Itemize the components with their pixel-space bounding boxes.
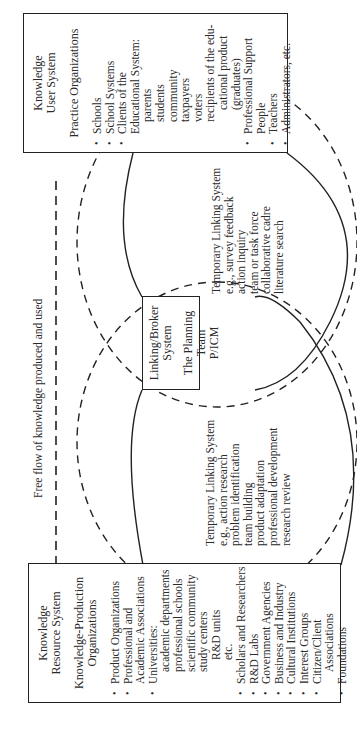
list-item: recipients of the edu-: [204, 20, 217, 146]
list-item: taxpayers: [179, 20, 192, 146]
tls-line: action inquiry: [235, 168, 248, 294]
list-item: R&D Labs: [248, 570, 261, 696]
user-system-title: Knowledge User System: [32, 20, 58, 146]
list-item: Product Organizations: [109, 570, 122, 696]
list-item: (graduates): [230, 20, 243, 146]
list-item: Government Agencies: [260, 570, 273, 696]
list-item: Teachers: [267, 20, 280, 146]
tls-line: team or task force: [248, 168, 261, 294]
broker-code: P/ICM: [208, 297, 221, 389]
tls-line: product adaptation: [254, 420, 267, 546]
list-item: People: [255, 20, 268, 146]
list-item: students: [154, 20, 167, 146]
user-system-list: Schools School Systems Clients of the Ed…: [91, 20, 293, 146]
broker-title: Linking/Broker System: [148, 297, 174, 389]
list-item: Business and Industry: [273, 570, 286, 696]
title-line: Resource System: [50, 570, 63, 696]
resource-system-list: Product Organizations Professional and A…: [109, 570, 348, 696]
flow-label: Free flow of knowledge produced and used: [32, 299, 44, 498]
list-item: Associations: [323, 570, 336, 696]
list-item: voters: [192, 20, 205, 146]
list-item: scientific community: [185, 570, 198, 696]
list-item: Schools: [91, 20, 104, 146]
list-item: parents: [141, 20, 154, 146]
tls-line: Temporary Linking System: [210, 168, 223, 294]
list-item: Universities:: [147, 570, 160, 696]
list-item: Scholars and Researchers: [235, 570, 248, 696]
list-item: Administrators, etc.: [280, 20, 293, 146]
list-item: study centers: [197, 570, 210, 696]
list-item: Professional and: [122, 570, 135, 696]
subtitle-line: Organizations: [86, 570, 99, 696]
list-item: Educational System:: [129, 20, 142, 146]
tls-line: Temporary Linking System: [204, 420, 217, 546]
tls-line: e.g., survey feedback: [223, 168, 236, 294]
list-item: Clients of the: [116, 20, 129, 146]
list-item: Citizen/Client: [311, 570, 324, 696]
list-item: community: [167, 20, 180, 146]
broker-team: The Planning Team: [182, 297, 208, 389]
linking-broker-system-box: Linking/Broker System The Planning Team …: [142, 296, 200, 390]
list-item: Professional Support: [242, 20, 255, 146]
temporary-linking-system-left: Temporary Linking System e.g., action re…: [204, 420, 292, 546]
subtitle-line: Practice Organizations: [68, 20, 81, 146]
list-item: Cultural Institutions: [285, 570, 298, 696]
tls-line: e.g., action research: [217, 420, 230, 546]
tls-line: team building: [242, 420, 255, 546]
list-item: Interest Groups: [298, 570, 311, 696]
tls-line: research review: [280, 420, 293, 546]
list-item: School Systems: [104, 20, 117, 146]
tls-line: literature search: [273, 168, 286, 294]
knowledge-user-system-box: Knowledge User System Practice Organizat…: [23, 13, 288, 153]
list-item: professional schools: [172, 570, 185, 696]
solid-arc-left-lower: [131, 390, 143, 565]
list-item: Foundations: [336, 570, 349, 696]
list-item: Academic Associations: [134, 570, 147, 696]
title-line: User System: [45, 20, 58, 146]
list-item: cational product: [217, 20, 230, 146]
tls-line: problem identification: [229, 420, 242, 546]
knowledge-resource-system-box: Knowledge Resource System Knowledge-Prod…: [28, 563, 341, 703]
list-item: academic departments: [159, 570, 172, 696]
resource-system-title: Knowledge Resource System: [37, 570, 63, 696]
tls-line: professional development: [267, 420, 280, 546]
temporary-linking-system-right: Temporary Linking System e.g., survey fe…: [210, 168, 286, 294]
list-item: etc.: [222, 570, 235, 696]
solid-arc-right-lower: [123, 153, 142, 297]
resource-system-subtitle: Knowledge-Production Organizations: [73, 570, 99, 696]
tls-line: collaborative cadre: [260, 168, 273, 294]
user-system-subtitle: Practice Organizations: [68, 20, 81, 146]
list-item: R&D units: [210, 570, 223, 696]
diagram-canvas: Free flow of knowledge produced and used…: [0, 0, 357, 742]
